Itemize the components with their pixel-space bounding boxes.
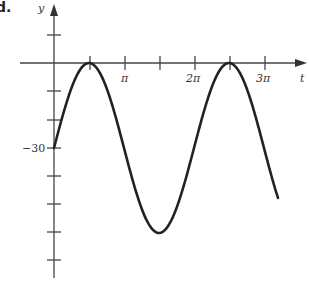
sine-curve xyxy=(54,63,278,233)
y-axis-label: y xyxy=(37,2,45,15)
part-label: d. xyxy=(0,0,11,15)
x-axis-label: t xyxy=(300,72,305,85)
y-tick-label-neg30: −30 xyxy=(22,142,45,155)
x-tick-label-pi: π xyxy=(120,72,129,85)
x-axis-arrow-icon xyxy=(295,59,307,67)
graph: d. y −30 π 2π 3π t xyxy=(0,0,309,283)
x-tick-label-3pi: 3π xyxy=(256,72,271,85)
x-tick-label-2pi: 2π xyxy=(185,72,201,85)
x-axis: π 2π 3π t xyxy=(20,56,307,85)
y-axis-arrow-icon xyxy=(50,4,58,16)
